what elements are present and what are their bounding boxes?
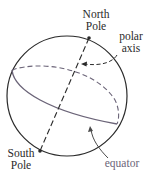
equator-leader bbox=[91, 129, 108, 158]
north-pole-label: North Pole bbox=[76, 8, 116, 32]
polar-axis-label-line1: polar bbox=[113, 30, 149, 42]
equator-arrowhead-icon bbox=[88, 126, 93, 132]
polar-axis-label-line2: axis bbox=[113, 42, 149, 54]
polar-axis-label: polar axis bbox=[113, 30, 149, 54]
equator-label: equator bbox=[99, 157, 145, 169]
north-pole-point bbox=[87, 36, 91, 40]
north-pole-label-line1: North bbox=[76, 8, 116, 20]
south-pole-label-line2: Pole bbox=[3, 159, 39, 171]
polar-axis-arrowhead-icon bbox=[81, 62, 87, 67]
north-pole-label-line2: Pole bbox=[76, 20, 116, 32]
equator-back-dashed bbox=[12, 66, 119, 124]
south-pole-label-line1: South bbox=[3, 147, 39, 159]
equator-front bbox=[12, 70, 117, 124]
south-pole-label: South Pole bbox=[3, 147, 39, 171]
sphere-outline bbox=[7, 36, 127, 156]
polar-axis-line bbox=[40, 38, 89, 151]
